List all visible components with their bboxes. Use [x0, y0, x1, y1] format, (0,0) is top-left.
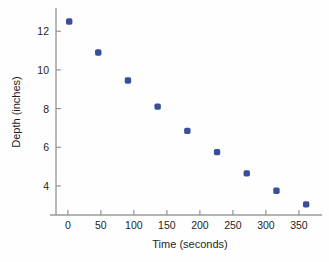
data-point: [95, 49, 101, 55]
data-point: [66, 18, 72, 24]
data-point: [184, 128, 190, 134]
x-tick-label: 250: [224, 219, 242, 231]
data-point: [125, 77, 131, 83]
scatter-chart-figure: 050100150200250300350 4681012 Time (seco…: [0, 0, 329, 262]
y-tick-label: 6: [43, 141, 49, 153]
x-tick-label: 200: [191, 219, 209, 231]
x-axis-title: Time (seconds): [152, 238, 227, 250]
data-point: [303, 201, 309, 207]
x-tick-label: 150: [158, 219, 176, 231]
x-tick-label: 0: [65, 219, 71, 231]
data-point: [244, 170, 250, 176]
y-axis-title: Depth (inches): [10, 76, 22, 148]
y-axis-tick-labels: 4681012: [37, 25, 49, 192]
x-tick-label: 100: [125, 219, 143, 231]
y-tick-label: 10: [37, 64, 49, 76]
y-tick-label: 12: [37, 25, 49, 37]
data-point: [154, 103, 160, 109]
x-tick-label: 50: [95, 219, 107, 231]
x-tick-label: 300: [257, 219, 275, 231]
data-point: [214, 149, 220, 155]
x-axis-tick-labels: 050100150200250300350: [65, 219, 308, 231]
y-tick-label: 4: [43, 180, 49, 192]
x-tick-label: 350: [290, 219, 308, 231]
data-point-series: [66, 18, 309, 207]
x-axis-tick-marks: [68, 210, 299, 215]
y-tick-label: 8: [43, 103, 49, 115]
data-point: [273, 188, 279, 194]
chart-canvas: 050100150200250300350 4681012 Time (seco…: [0, 0, 329, 262]
y-axis-tick-marks: [56, 31, 61, 186]
